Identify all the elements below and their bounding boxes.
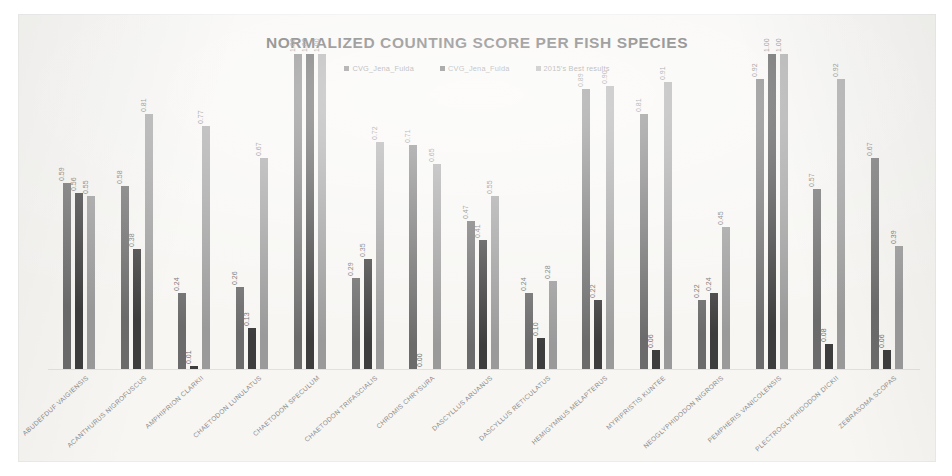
bar-value-label: 0.90 [601,70,608,84]
category-label: AMPHIPRION CLARKII [144,374,205,430]
bar-value-label: 0.24 [705,278,712,292]
bar-column: 0.08 [825,54,833,369]
bar-value-label: 0.47 [462,205,469,219]
category-label-text: CHAETODON SPECULUM [251,374,320,437]
bar[interactable]: 0.77 [202,126,210,369]
bar-value-label: 0.59 [58,168,65,182]
bar[interactable]: 0.58 [121,186,129,369]
bar-column: 0.65 [433,54,441,369]
bar[interactable]: 0.29 [352,278,360,369]
bar-column: 0.47 [467,54,475,369]
bar-value-label: 0.92 [751,64,758,78]
bar[interactable]: 0.89 [582,89,590,369]
bar[interactable]: 0.92 [756,79,764,369]
category-axis-labels: ABUDEFDUF VAIGIENSISACANTHURUS NIGROFUSC… [50,370,916,460]
bar-group: 0.570.080.92 [801,54,859,369]
bar-value-label: 0.38 [128,234,135,248]
bar-group: 0.890.220.90 [570,54,628,369]
bar-column: 1.00 [768,54,776,369]
bar-column: 0.06 [883,54,891,369]
bar[interactable]: 1.00 [306,54,314,369]
bar[interactable]: 0.28 [549,281,557,369]
bar[interactable]: 0.45 [722,227,730,369]
bar[interactable]: 0.13 [248,328,256,369]
category-label: CHAETODON LUNULATUS [192,374,263,439]
bar-group: 0.290.350.72 [339,54,397,369]
bar[interactable]: 0.06 [883,350,891,369]
bar-value-label: 0.24 [520,278,527,292]
bar-column: 0.67 [871,54,879,369]
bar-value-label: 0.67 [866,142,873,156]
bar-column: 0.45 [722,54,730,369]
bar-column: 0.13 [248,54,256,369]
bar[interactable]: 0.06 [652,350,660,369]
bar-value-label: 0.26 [231,271,238,285]
category-label-text: ZEBRASOMA SCOPAS [837,374,898,430]
bar[interactable]: 0.10 [537,338,545,370]
bar-column: 0.81 [640,54,648,369]
bar[interactable]: 1.00 [294,54,302,369]
bar[interactable]: 0.57 [813,189,821,369]
bar-value-label: 1.00 [763,38,770,52]
bar-column: 0.58 [121,54,129,369]
bar-column: 0.90 [606,54,614,369]
category-label-text: DASCYLLUS ARUANUS [430,374,493,432]
bar[interactable]: 0.81 [640,114,648,369]
bar-value-label: 0.08 [820,328,827,342]
bar-value-label: 0.00 [416,353,423,367]
bar-value-label: 0.39 [890,231,897,245]
bar-column: 0.00 [421,54,429,369]
bar[interactable]: 0.41 [479,240,487,369]
bar-value-label: 0.58 [116,171,123,185]
bar[interactable]: 0.22 [698,300,706,369]
category-label: DASCYLLUS ARUANUS [430,374,493,432]
bar-column: 0.77 [202,54,210,369]
bar[interactable]: 0.90 [606,86,614,370]
bar-value-label: 0.67 [255,142,262,156]
bar-column: 0.81 [145,54,153,369]
bar-column: 0.71 [409,54,417,369]
bar[interactable]: 0.26 [236,287,244,369]
bar-value-label: 0.01 [185,350,192,364]
bar[interactable]: 0.22 [594,300,602,369]
bar[interactable]: 0.55 [491,196,499,369]
bar-value-label: 0.55 [82,180,89,194]
bar-value-label: 0.91 [659,67,666,81]
bar-value-label: 0.81 [140,98,147,112]
bar[interactable]: 1.00 [780,54,788,369]
bar[interactable]: 0.91 [664,82,672,369]
bar[interactable]: 0.67 [260,158,268,369]
bar-column: 0.41 [479,54,487,369]
bar[interactable]: 1.00 [768,54,776,369]
bar[interactable]: 0.39 [895,246,903,369]
bar[interactable]: 0.55 [87,196,95,369]
bar[interactable]: 0.72 [376,142,384,369]
bar-group: 0.220.240.45 [685,54,743,369]
bar-group: 0.710.000.65 [396,54,454,369]
bar[interactable]: 0.24 [710,293,718,369]
bar[interactable]: 0.81 [145,114,153,369]
bar-value-label: 0.06 [647,334,654,348]
category-label: CHAETODON SPECULUM [251,374,320,437]
bar-group: 0.810.060.91 [627,54,685,369]
bar-column: 0.29 [352,54,360,369]
bar[interactable]: 0.65 [433,164,441,369]
bar[interactable]: 0.59 [63,183,71,369]
bar[interactable]: 0.47 [467,221,475,369]
bar-value-label: 0.72 [371,127,378,141]
bar-column: 0.35 [364,54,372,369]
category-label-text: CHROMIS CHRYSURA [375,374,436,430]
bar[interactable]: 0.71 [409,145,417,369]
bar-column: 0.28 [549,54,557,369]
bar[interactable]: 0.56 [75,193,83,369]
bar[interactable]: 0.35 [364,259,372,369]
bar-value-label: 0.57 [808,174,815,188]
bar[interactable]: 0.08 [825,344,833,369]
bar[interactable]: 0.38 [133,249,141,369]
bar[interactable]: 1.00 [318,54,326,369]
bar[interactable]: 0.92 [837,79,845,369]
bar-value-label: 0.77 [197,111,204,125]
chart-title: NORMALIZED COUNTING SCORE PER FISH SPECI… [18,34,936,52]
bar-column: 1.00 [780,54,788,369]
scanned-page: NORMALIZED COUNTING SCORE PER FISH SPECI… [18,14,936,462]
